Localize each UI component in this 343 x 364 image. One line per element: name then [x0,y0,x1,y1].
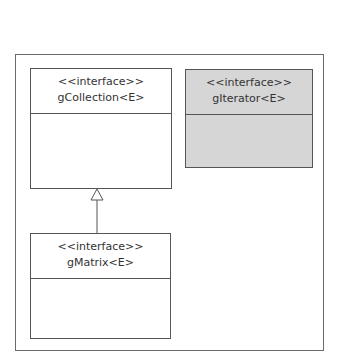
class-name: gMatrix<E> [31,255,170,271]
class-header: <<interface>> gMatrix<E> [31,234,170,279]
class-name: gIterator<E> [186,91,312,107]
class-name: gCollection<E> [31,90,171,106]
stereotype-label: <<interface>> [31,74,171,90]
class-giterator[interactable]: <<interface>> gIterator<E> [185,69,313,168]
class-header: <<interface>> gCollection<E> [31,69,171,114]
class-gmatrix[interactable]: <<interface>> gMatrix<E> [30,233,171,339]
class-gcollection[interactable]: <<interface>> gCollection<E> [30,68,172,189]
stereotype-label: <<interface>> [31,239,170,255]
stereotype-label: <<interface>> [186,75,312,91]
class-header: <<interface>> gIterator<E> [186,70,312,115]
